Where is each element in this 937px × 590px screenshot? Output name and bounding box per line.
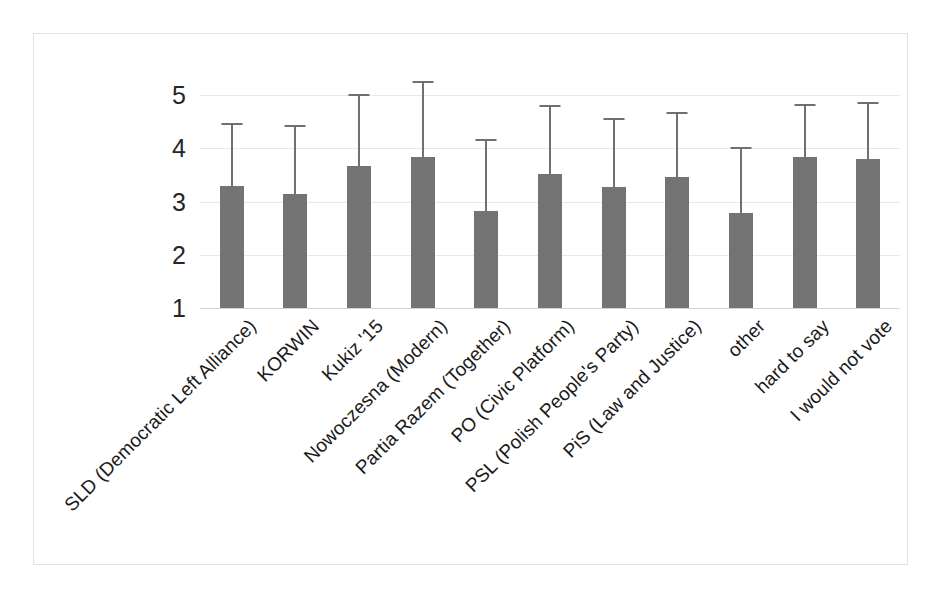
x-axis-category-label: KORWIN — [254, 316, 323, 385]
bar — [793, 157, 817, 308]
error-bar-cap — [858, 102, 879, 104]
bar-group — [392, 95, 454, 308]
bar — [856, 159, 880, 308]
bar-group — [837, 95, 899, 308]
y-axis-tick-label: 4 — [172, 136, 186, 161]
bar — [729, 213, 753, 308]
error-bar-cap — [730, 147, 751, 149]
y-axis-tick-label: 1 — [172, 296, 186, 321]
chart-screenshot: 12345 SLD (Democratic Left Alliance)KORW… — [0, 0, 937, 590]
y-axis-tick-label: 5 — [172, 83, 186, 108]
bar-group — [264, 95, 326, 308]
y-axis-tick-label: 3 — [172, 189, 186, 214]
bar-group — [201, 95, 263, 308]
error-bar-cap — [349, 94, 370, 96]
error-bar-line — [231, 123, 233, 185]
x-axis-category-label: PO (Civic Platform) — [448, 316, 578, 446]
bar — [538, 174, 562, 308]
error-bar-line — [549, 105, 551, 174]
bar — [283, 194, 307, 308]
error-bar-cap — [667, 112, 688, 114]
error-bar-cap — [221, 123, 242, 125]
plot-area: 12345 — [200, 95, 900, 308]
error-bar-line — [422, 81, 424, 157]
error-bar-line — [867, 102, 869, 159]
error-bar-line — [485, 139, 487, 211]
bar-group — [710, 95, 772, 308]
bar — [474, 211, 498, 308]
bar — [665, 177, 689, 308]
bar-series-layer — [200, 95, 900, 308]
error-bar-cap — [794, 104, 815, 106]
error-bar-cap — [540, 105, 561, 107]
bar — [220, 186, 244, 308]
bar-group — [328, 95, 390, 308]
error-bar-cap — [476, 139, 497, 141]
error-bar-line — [358, 94, 360, 166]
bar-group — [519, 95, 581, 308]
bar — [411, 157, 435, 308]
error-bar-line — [294, 125, 296, 194]
error-bar-cap — [285, 125, 306, 127]
bar-group — [455, 95, 517, 308]
bar — [347, 166, 371, 308]
error-bar-cap — [603, 118, 624, 120]
y-axis-tick-label: 2 — [172, 242, 186, 267]
error-bar-line — [740, 147, 742, 213]
error-bar-line — [676, 112, 678, 177]
x-axis-category-label: other — [724, 316, 768, 360]
x-axis-label-layer: SLD (Democratic Left Alliance)KORWINKuki… — [200, 308, 900, 568]
error-bar-cap — [412, 81, 433, 83]
error-bar-line — [613, 118, 615, 187]
bar-group — [646, 95, 708, 308]
bar — [602, 187, 626, 308]
bar-group — [583, 95, 645, 308]
bar-group — [774, 95, 836, 308]
error-bar-line — [804, 104, 806, 158]
